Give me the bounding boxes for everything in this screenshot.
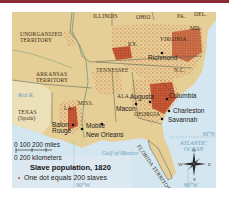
region-label-arkansas-territory: ARKANSASTERRITORY	[36, 72, 68, 83]
city-label-new-orleans: New Orleans	[86, 132, 124, 139]
region-label-nc: N.C.	[174, 68, 185, 74]
region-label-georgia: GEORGIA	[134, 112, 160, 118]
region-label-pa: PA.	[177, 14, 186, 20]
water-label-gulf-of-mexico: Gulf of Mexico	[102, 150, 138, 156]
city-label-baton-rouge: Baton Rouge	[52, 122, 74, 134]
city-label-richmond: Richmond	[148, 55, 177, 62]
legend-title: Slave population, 1820	[30, 163, 111, 172]
region-label-la: LA.	[64, 106, 73, 112]
region-label-virginia: VIRGINIA	[160, 37, 187, 43]
region-label-ala: ALA.	[117, 94, 130, 100]
water-label-red-river: Red R.	[18, 92, 34, 98]
top-border-bar	[0, 0, 229, 3]
city-label-charleston: Charleston	[173, 108, 204, 115]
region-label-del: DEL.	[194, 12, 207, 18]
legend-dot-row: One dot equals 200 slaves	[18, 174, 107, 181]
compass-s: S	[193, 177, 196, 182]
city-label-columbia: Columbia	[169, 93, 196, 100]
region-label-illinois: ILLINOIS	[93, 14, 118, 20]
legend-dot-label: One dot equals 200 slaves	[24, 174, 107, 181]
dot-icon	[18, 177, 20, 179]
compass-w: W	[178, 162, 183, 167]
map-legend: Slave population, 1820 One dot equals 20…	[14, 160, 132, 188]
slave-population-map: UNORGANIZEDTERRITORY ILLINOIS OHIO PA. D…	[12, 12, 216, 188]
region-label-tennessee: TENNESSEE	[96, 68, 129, 74]
compass-n: N	[192, 148, 196, 153]
region-label-miss: MISS.	[78, 101, 93, 107]
city-label-augusta: Augusta	[130, 94, 154, 101]
region-label-ohio: OHIO	[136, 15, 151, 21]
grid-label-30n: 30°N	[202, 131, 215, 137]
region-label-md: MD.	[190, 26, 201, 32]
region-label-texas: TEXAS(Spain)	[18, 110, 37, 121]
grid-label-80w: 80°W	[184, 182, 198, 188]
city-label-savannah: Savannah	[168, 117, 197, 124]
compass-e: E	[208, 162, 211, 167]
region-label-ky: KY.	[128, 42, 137, 48]
region-label-unorganized-territory: UNORGANIZEDTERRITORY	[20, 32, 62, 43]
city-label-mobile: Mobile	[86, 123, 105, 130]
city-label-macon: Macon	[116, 106, 136, 113]
scale-miles: 0 100 200 miles	[14, 142, 60, 149]
